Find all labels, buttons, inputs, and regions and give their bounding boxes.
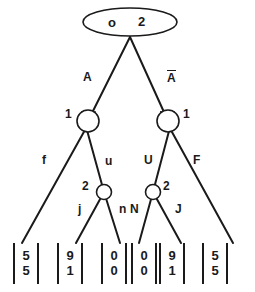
edge-root-left	[88, 37, 130, 121]
level2-right-node-circle	[146, 185, 161, 200]
leaf-vector: 9 1	[164, 248, 180, 278]
edge-label-U: U	[144, 154, 153, 166]
leaf-value-top: 5	[207, 248, 223, 263]
leaf-vector: 0 0	[106, 248, 122, 278]
level1-right-node-circle	[157, 110, 179, 132]
edge-label-F: F	[193, 154, 200, 166]
level2-right-node-label: 2	[163, 180, 170, 192]
leaf-value-top: 0	[106, 248, 122, 263]
leaf-value-top: 0	[136, 248, 152, 263]
leaf-vector: 9 1	[62, 248, 78, 278]
edge-label-j: j	[78, 203, 81, 215]
edge-l2left-to-leaf2	[76, 192, 104, 243]
leaf-value-top: 9	[164, 248, 180, 263]
edge-label-N: N	[130, 203, 139, 215]
level2-left-node-label: 2	[82, 180, 89, 192]
leaf-value-bottom: 0	[106, 263, 122, 278]
leaf-vector: 5 5	[18, 248, 34, 278]
root-node-ellipse	[83, 8, 177, 36]
root-label-left: o	[108, 16, 116, 29]
edge-root-right	[130, 37, 168, 121]
leaf-vector: 5 5	[207, 248, 223, 278]
leaf-vector: 0 0	[136, 248, 152, 278]
leaf-value-bottom: 0	[136, 263, 152, 278]
level1-left-node-label: 1	[65, 108, 72, 120]
edge-label-f: f	[42, 154, 46, 166]
level2-left-node-circle	[97, 185, 112, 200]
leaf-value-bottom: 1	[62, 263, 78, 278]
root-label-right: 2	[138, 15, 145, 28]
level1-right-node-label: 1	[183, 108, 190, 120]
leaf-value-top: 5	[18, 248, 34, 263]
leaf-value-top: 9	[62, 248, 78, 263]
decision-tree-diagram: o 2 A A 1 1 f u U F 2 2 j n N J 5 5 9 1 …	[0, 0, 255, 292]
edge-label-u: u	[105, 155, 112, 167]
edge-label-root-left: A	[83, 71, 92, 83]
leaf-value-bottom: 5	[207, 263, 223, 278]
edge-label-n: n	[119, 203, 126, 215]
edge-l2right-to-leaf5	[153, 192, 181, 243]
level1-left-node-circle	[77, 110, 99, 132]
edge-label-J: J	[175, 203, 182, 215]
leaf-value-bottom: 5	[18, 263, 34, 278]
edge-label-root-right: A	[167, 70, 176, 84]
leaf-value-bottom: 1	[164, 263, 180, 278]
